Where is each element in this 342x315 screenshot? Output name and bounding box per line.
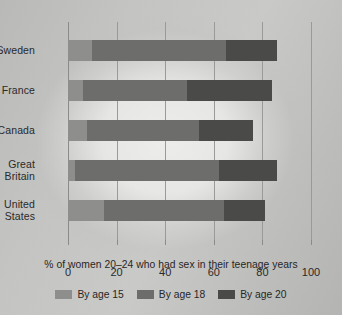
plot-area: 020406080100SwedenFranceCanadaGreatBrita… xyxy=(68,22,311,240)
bar-segment xyxy=(226,40,277,61)
bar-segment xyxy=(68,160,75,181)
y-category-label: GreatBritain xyxy=(0,159,35,182)
x-tick-0 xyxy=(68,240,69,245)
bar-segment xyxy=(87,120,199,141)
bar-segment xyxy=(68,40,92,61)
bar-segment xyxy=(75,160,218,181)
x-tick-40 xyxy=(165,240,166,245)
legend-swatch-icon xyxy=(55,290,72,299)
y-category-label-line: Sweden xyxy=(0,45,35,57)
bar-segment xyxy=(68,120,87,141)
y-category-label: UnitedStates xyxy=(0,199,35,222)
bar-segment xyxy=(187,80,272,101)
bar-row xyxy=(68,80,272,101)
legend-item: By age 15 xyxy=(55,289,123,300)
y-category-label: Canada xyxy=(0,125,35,137)
legend-item: By age 20 xyxy=(218,289,286,300)
x-axis-caption: % of women 20–24 who had sex in their te… xyxy=(0,259,342,270)
legend-label: By age 20 xyxy=(240,289,286,300)
x-tick-60 xyxy=(214,240,215,245)
bar-row xyxy=(68,160,277,181)
gridline-100 xyxy=(311,22,312,240)
y-category-label-line: United xyxy=(0,199,35,211)
bar-segment xyxy=(104,200,223,221)
legend-swatch-icon xyxy=(218,290,235,299)
chart-legend: By age 15By age 18By age 20 xyxy=(0,289,342,300)
bar-segment xyxy=(199,120,252,141)
y-category-label-line: Great xyxy=(0,159,35,171)
bar-segment xyxy=(219,160,277,181)
chart-figure: 020406080100SwedenFranceCanadaGreatBrita… xyxy=(0,0,342,315)
bar-segment xyxy=(92,40,226,61)
bar-row xyxy=(68,200,265,221)
bar-row xyxy=(68,120,253,141)
x-tick-20 xyxy=(117,240,118,245)
y-category-label: Sweden xyxy=(0,45,35,57)
x-tick-100 xyxy=(311,240,312,245)
bar-segment xyxy=(224,200,265,221)
legend-swatch-icon xyxy=(137,290,154,299)
bar-segment xyxy=(68,200,104,221)
y-category-label-line: States xyxy=(0,211,35,223)
x-tick-80 xyxy=(262,240,263,245)
y-category-label-line: Britain xyxy=(0,171,35,183)
legend-label: By age 15 xyxy=(77,289,123,300)
bar-segment xyxy=(83,80,187,101)
y-category-label-line: Canada xyxy=(0,125,35,137)
y-category-label-line: France xyxy=(0,85,35,97)
legend-label: By age 18 xyxy=(159,289,205,300)
bar-row xyxy=(68,40,277,61)
legend-item: By age 18 xyxy=(137,289,205,300)
y-category-label: France xyxy=(0,85,35,97)
bar-segment xyxy=(68,80,83,101)
